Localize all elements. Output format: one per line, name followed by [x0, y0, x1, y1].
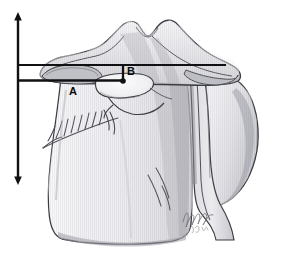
measurement-b-endpoint: [120, 78, 126, 84]
figure-root: A B Raja 2014: [0, 0, 283, 263]
measurement-b-label: B: [127, 65, 135, 77]
measurement-a-label: A: [69, 85, 77, 97]
anatomical-illustration: A B Raja 2014: [0, 0, 283, 263]
